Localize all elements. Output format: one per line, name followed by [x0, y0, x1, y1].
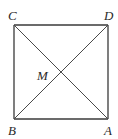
- square-diagonals: [14, 25, 108, 119]
- vertex-label-b: B: [8, 123, 16, 138]
- vertex-label-c: C: [8, 8, 17, 23]
- square-diagram: C D B A M: [0, 0, 118, 139]
- vertex-label-d: D: [103, 8, 114, 23]
- center-label-m: M: [36, 68, 49, 83]
- vertex-label-a: A: [103, 123, 112, 138]
